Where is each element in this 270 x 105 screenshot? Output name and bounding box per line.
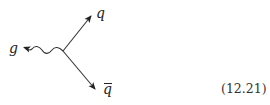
equation-number: (12.21) [221,83,267,96]
quark-label: q [96,6,105,20]
quark-line [63,16,91,51]
antiquark-label: q [103,82,112,96]
gluon-label: g [9,41,18,55]
gluon-propagator [24,46,63,53]
antiquark-line [63,51,95,89]
